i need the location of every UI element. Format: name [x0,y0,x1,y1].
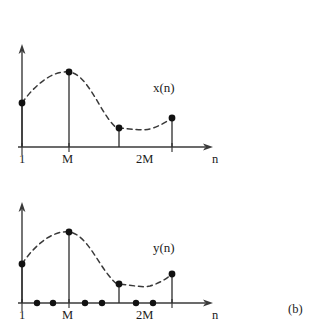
upper-signal-label: x(n) [153,81,175,94]
lower-zero-sample-dot [133,300,139,306]
lower-plot-group [18,202,213,311]
lower-sample-dot [116,281,123,288]
lower-sample-dot [19,261,26,268]
panel-tag-b: (b) [288,303,303,316]
lower-zero-sample-dot [150,300,156,306]
upper-tick-label-2M: 2M [136,153,153,166]
lower-zero-sample-dot [34,300,40,306]
lower-tick-label-M: M [62,309,73,322]
upper-sample-dot [169,115,176,122]
upper-sample-dot [116,125,123,132]
upper-tick-label-1: 1 [19,153,25,166]
lower-tick-label-1: 1 [19,309,25,322]
lower-x-axis-label: n [212,309,218,322]
figure-vector-layer [0,0,324,333]
lower-zero-sample-dot [99,300,105,306]
lower-tick-label-2M: 2M [136,309,153,322]
upper-tick-label-M: M [62,153,73,166]
lower-sample-dot [169,271,176,278]
lower-signal-label: y(n) [153,241,175,254]
upper-sample-dot [19,100,26,107]
upper-x-axis-label: n [212,153,218,166]
upper-envelope-curve [22,72,172,130]
lower-envelope-curve [22,232,172,287]
lower-zero-sample-dot [82,300,88,306]
upper-sample-dot [66,69,73,76]
lower-zero-sample-dot [50,300,56,306]
figure-root: x(n) 1 M 2M n y(n) 1 M 2M n (b) [0,0,324,333]
upper-plot-group [18,44,213,155]
lower-sample-dot [66,229,73,236]
